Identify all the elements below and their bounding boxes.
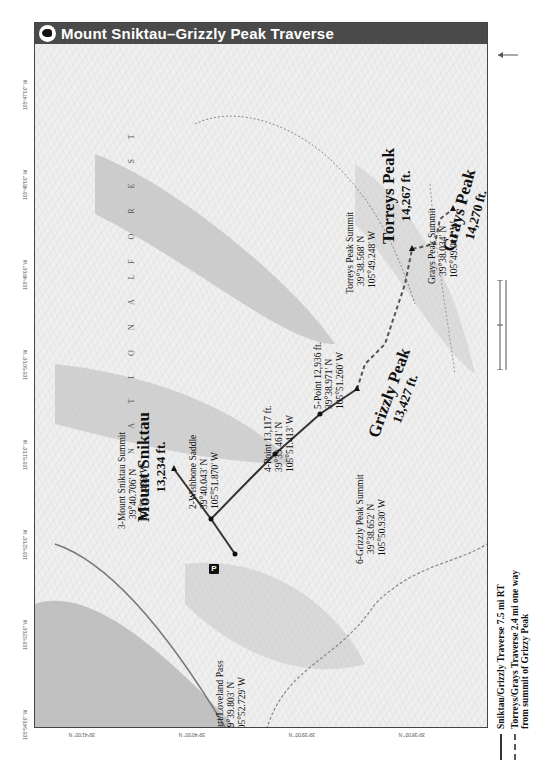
- legend-label-line2: from summit of Grizzy Peak: [520, 570, 530, 729]
- waypoint-lon: 105°52.729' W: [237, 660, 248, 727]
- forest-label: F O R E S T: [127, 125, 136, 264]
- legend-item-dashed: Torreys/Grays Traverse 2.4 mi one way fr…: [510, 570, 530, 760]
- legend-label: Sniktau/Grizzly Traverse 7.5 mi RT: [496, 584, 506, 729]
- topo-contours: [35, 44, 487, 727]
- waypoint-lon: 105°51.260' W: [335, 342, 346, 409]
- waypoint-name: Grays Peak Summit: [427, 208, 438, 284]
- peak-elevation: 13,234 ft.: [152, 412, 169, 522]
- lat-tick: 39°38'00" N: [399, 732, 425, 738]
- waypoint-lat: 39°39.461' N: [274, 405, 285, 472]
- waypoint-lon: 105°51.413' W: [285, 405, 296, 472]
- waypoint-lon: 105°49.248' W: [367, 212, 378, 294]
- waypoint-2-label[interactable]: 2-Wishbone Saddle 39°40.043' N 105°51.87…: [188, 435, 221, 509]
- lon-tick: 105°47'00" W: [22, 80, 28, 110]
- waypoint-name: 4-Point 13,117 ft.: [263, 405, 274, 472]
- waypoint-lon: 105°51.459' W: [139, 432, 150, 529]
- waypoint-lat: 39°38.568' N: [356, 212, 367, 294]
- waypoint-name: 5-Point 12,936 ft.: [313, 342, 324, 409]
- waypoint-4-label[interactable]: 4-Point 13,117 ft. 39°39.461' N 105°51.4…: [263, 405, 296, 472]
- topo-map[interactable]: N A T I O N A L F O R E S T P Mount Snik…: [35, 44, 487, 727]
- lon-tick: 105°48'00" W: [22, 170, 28, 200]
- waypoint-lat: 39°38.034' N: [438, 208, 449, 284]
- waypoint-6-label[interactable]: 6-Grizzly Peak Summit 39°38.652' N 105°5…: [355, 474, 388, 564]
- map-title: Mount Sniktau–Grizzly Peak Traverse: [61, 25, 334, 42]
- legend: Sniktau/Grizzly Traverse 7.5 mi RT Torre…: [488, 520, 538, 770]
- waypoint-grays-label[interactable]: Grays Peak Summit 39°38.034' N 105°49.01…: [427, 208, 460, 284]
- map-frame: Mount Sniktau–Grizzly Peak Traverse: [34, 22, 488, 728]
- waypoint-lon: 105°49.014' W: [449, 208, 460, 284]
- waypoint-3-label[interactable]: 3-Mount Sniktau Summit 39°40.706' N 105°…: [117, 432, 150, 529]
- lon-tick: 105°51'00" W: [22, 440, 28, 470]
- bighorn-sheep-icon: [39, 25, 56, 42]
- waypoint-name: 6-Grizzly Peak Summit: [355, 474, 366, 564]
- peak-label-torreys-peak: Torreys Peak 14,267 ft.: [380, 148, 414, 244]
- scale-bar-icon: [494, 280, 514, 370]
- lat-tick: 39°40'00" N: [179, 732, 205, 738]
- waypoint-lon: 105°51.870' W: [210, 435, 221, 509]
- waypoint-lat: 39°40.706' N: [128, 432, 139, 529]
- parking-icon: P: [209, 564, 219, 574]
- waypoint-lat: 39°38.652' N: [366, 474, 377, 564]
- waypoint-lon: 105°50.930' W: [377, 474, 388, 564]
- lat-tick: 39°41'00" N: [69, 732, 95, 738]
- solid-line-icon: [500, 734, 502, 760]
- waypoint-torreys-label[interactable]: Torreys Peak Summit 39°38.568' N 105°49.…: [345, 212, 378, 294]
- title-bar: Mount Sniktau–Grizzly Peak Traverse: [35, 23, 487, 44]
- waypoint-1-label[interactable]: 1-Start/Loveland Pass 39°39.803' N 105°5…: [215, 660, 248, 727]
- waypoint-name: 1-Start/Loveland Pass: [215, 660, 226, 727]
- north-arrow-icon: [494, 40, 524, 70]
- lon-tick: 105°50'00" W: [22, 350, 28, 380]
- legend-label-line1: Torreys/Grays Traverse 2.4 mi one way: [510, 570, 520, 729]
- peak-name: Torreys Peak: [379, 148, 398, 244]
- waypoint-lat: 39°38.971' N: [324, 342, 335, 409]
- legend-item-solid: Sniktau/Grizzly Traverse 7.5 mi RT: [496, 584, 506, 760]
- lon-tick: 105°54'00" W: [22, 710, 28, 740]
- waypoint-name: 3-Mount Sniktau Summit: [117, 432, 128, 529]
- lon-tick: 105°49'00" W: [22, 260, 28, 290]
- peak-elevation: 14,267 ft.: [397, 148, 414, 244]
- waypoint-lat: 39°39.803' N: [226, 660, 237, 727]
- waypoint-name: 2-Wishbone Saddle: [188, 435, 199, 509]
- lon-tick: 105°52'00" W: [22, 530, 28, 560]
- lon-tick: 105°53'00" W: [22, 620, 28, 650]
- waypoint-lat: 39°40.043' N: [199, 435, 210, 509]
- lat-tick: 39°39'00" N: [289, 732, 315, 738]
- waypoint-5-label[interactable]: 5-Point 12,936 ft. 39°38.971' N 105°51.2…: [313, 342, 346, 409]
- dashed-line-icon: [514, 734, 516, 760]
- legend-label: Torreys/Grays Traverse 2.4 mi one way fr…: [510, 570, 530, 729]
- waypoint-name: Torreys Peak Summit: [345, 212, 356, 294]
